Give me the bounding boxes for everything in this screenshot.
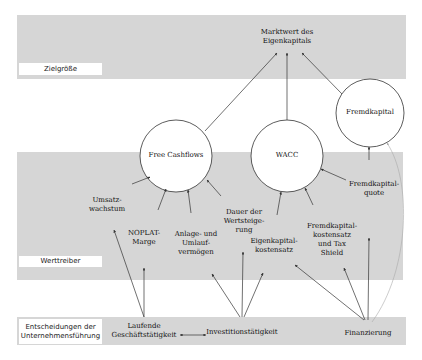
- node-revenue-growth: Umsatz- wachstum: [89, 196, 125, 214]
- node-free-cashflows: Free Cashflows: [149, 151, 204, 160]
- node-cost-of-debt: Fremdkapital- kostensatz und Tax Shield: [307, 222, 357, 258]
- node-growth-duration: Dauer der Wertsteige- rung: [224, 208, 265, 235]
- node-financing: Finanzierung: [344, 329, 391, 338]
- node-debt-ratio: Fremdkapital- quote: [349, 180, 399, 198]
- node-wacc: WACC: [276, 151, 299, 160]
- node-noplat-margin: NOPLAT- Marge: [128, 229, 160, 247]
- node-debt: Fremdkapital: [346, 108, 394, 117]
- node-assets: Anlage- und Umlauf- vermögen: [175, 230, 218, 257]
- node-investment: Investitionstätigkeit: [206, 328, 277, 337]
- node-operations: Laufende Geschäftstätigkeit: [112, 322, 177, 340]
- node-equity-value: Marktwert des Eigenkapitals: [261, 28, 313, 46]
- node-cost-of-equity: Eigenkapital- kostensatz: [250, 237, 297, 255]
- curve-financing-to-debt: [372, 143, 404, 322]
